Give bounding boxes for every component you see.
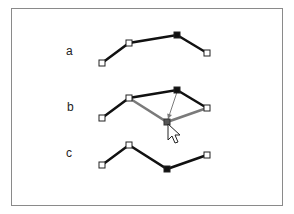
selected-vertex-handle[interactable]: [164, 166, 170, 172]
vertex-handle[interactable]: [99, 115, 105, 121]
vertex-handle[interactable]: [126, 95, 132, 101]
polyline-c: [102, 145, 207, 169]
vertex-handle[interactable]: [204, 50, 210, 56]
selected-vertex-handle[interactable]: [174, 32, 180, 38]
vertex-handle[interactable]: [99, 60, 105, 66]
vertex-handle[interactable]: [204, 152, 210, 158]
vertex-handle[interactable]: [126, 142, 132, 148]
selected-vertex-handle[interactable]: [174, 87, 180, 93]
vertex-handle[interactable]: [204, 105, 210, 111]
dragged-vertex-handle[interactable]: [164, 119, 170, 125]
polyline-a: [102, 35, 207, 63]
polyline-canvas: [0, 0, 294, 214]
mouse-cursor-icon: [168, 124, 180, 143]
vertex-handle[interactable]: [126, 40, 132, 46]
arrowhead-icon: [167, 113, 172, 119]
vertex-handle[interactable]: [99, 162, 105, 168]
